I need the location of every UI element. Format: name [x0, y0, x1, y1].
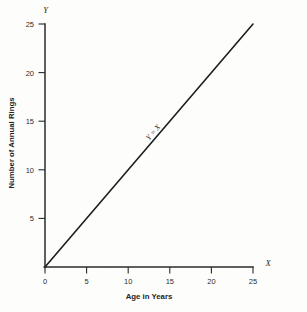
y-tick-labels: 25 20 15 10 5	[26, 20, 34, 223]
x-axis-title: Age in Years	[126, 292, 173, 301]
y-axis-letter: Y	[43, 5, 49, 15]
x-tick-label-10: 10	[124, 277, 132, 286]
chart-figure: 25 20 15 10 5 0 5 10 15 20 25 Y X Y = X …	[0, 0, 307, 312]
x-tick-label-15: 15	[166, 277, 174, 286]
y-tick-label-25: 25	[26, 20, 34, 29]
x-tick-label-0: 0	[43, 277, 47, 286]
y-tick-label-5: 5	[30, 214, 34, 223]
y-axis-ticks	[39, 24, 46, 218]
x-tick-label-20: 20	[207, 277, 215, 286]
line-chart: 25 20 15 10 5 0 5 10 15 20 25 Y X Y = X …	[0, 0, 307, 312]
x-tick-labels: 0 5 10 15 20 25	[43, 277, 257, 286]
y-tick-label-10: 10	[26, 166, 34, 175]
x-tick-label-25: 25	[249, 277, 257, 286]
x-axis-ticks	[45, 267, 253, 274]
series-line-y-equals-x	[45, 24, 253, 267]
y-tick-label-20: 20	[26, 69, 34, 78]
y-axis-title: Number of Annual Rings	[7, 97, 16, 189]
x-axis-letter: X	[264, 258, 271, 268]
y-tick-label-15: 15	[26, 117, 34, 126]
x-tick-label-5: 5	[85, 277, 89, 286]
